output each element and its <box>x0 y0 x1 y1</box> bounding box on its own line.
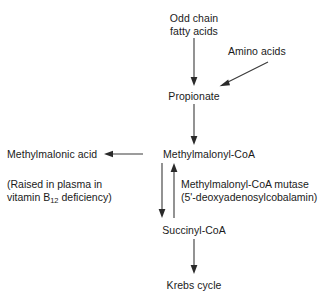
amino-acids-label: Amino acids <box>228 45 286 57</box>
deficiency-line-2: vitamin B12 deficiency) <box>7 191 112 205</box>
node-krebs-cycle: Krebs cycle <box>167 279 222 292</box>
methylmalonic-acid-label: Methylmalonic acid <box>7 148 97 160</box>
odd-chain-line-1: Odd chain <box>170 12 218 24</box>
arrow-succinyl-coa-to-krebs-cycle <box>191 239 198 274</box>
enzyme-line-2: (5'-deoxyadenosylcobalamin) <box>181 191 317 204</box>
arrow-amino-acids-to-propionate <box>220 62 269 86</box>
arrow-propionate-to-methylmalonyl-coa <box>191 104 198 145</box>
pathway-diagram: Odd chain fatty acids Amino acids Propio… <box>0 0 323 300</box>
deficiency-pre: vitamin B <box>7 191 50 203</box>
node-propionate: Propionate <box>168 90 219 103</box>
enzyme-line-1: Methylmalonyl-CoA mutase <box>181 178 309 190</box>
deficiency-post: deficiency) <box>59 191 112 203</box>
vitamin-b12-subscript: 12 <box>50 196 58 205</box>
arrow-odd-chain-to-propionate <box>191 38 198 86</box>
node-methylmalonyl-coa: Methylmalonyl-CoA <box>163 148 255 161</box>
node-succinyl-coa: Succinyl-CoA <box>162 224 226 237</box>
node-methylmalonic-acid: Methylmalonic acid <box>7 148 97 161</box>
succinyl-coa-label: Succinyl-CoA <box>162 224 226 236</box>
propionate-label: Propionate <box>168 90 219 102</box>
odd-chain-line-2: fatty acids <box>170 25 218 37</box>
arrow-succinyl-coa-to-methylmalonyl-coa <box>171 163 178 218</box>
arrow-methylmalonyl-coa-to-succinyl-coa <box>159 163 166 218</box>
krebs-cycle-label: Krebs cycle <box>167 279 222 291</box>
node-amino-acids: Amino acids <box>228 45 286 58</box>
node-odd-chain-fatty-acids: Odd chain fatty acids <box>170 12 218 37</box>
note-enzyme-mutase: Methylmalonyl-CoA mutase (5'-deoxyadenos… <box>181 178 317 204</box>
note-b12-deficiency: (Raised in plasma in vitamin B12 deficie… <box>7 178 112 205</box>
arrow-methylmalonyl-coa-to-methylmalonic-acid <box>104 151 143 158</box>
methylmalonyl-coa-label: Methylmalonyl-CoA <box>163 148 255 160</box>
deficiency-line-1: (Raised in plasma in <box>7 178 102 190</box>
